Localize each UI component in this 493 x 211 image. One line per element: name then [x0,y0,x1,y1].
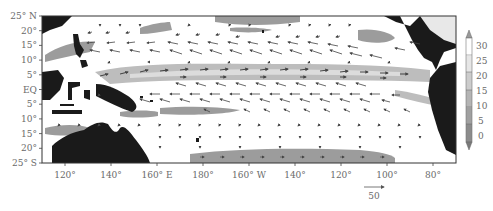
colorbar-tick-label: 5 [478,116,484,126]
y-tick-label: 10° [21,55,37,65]
y-tick-label: 20° [21,26,37,36]
colorbar-tick-label: 0 [478,131,484,141]
y-tick-label: 25° N [10,11,37,21]
colorbar-bottom-extend [466,142,472,150]
y-tick-label: 25° S [12,158,37,168]
y-tick-label: 15° [21,40,37,50]
y-tick-label: 20° [21,143,37,153]
colorbar-tick-label: 15 [476,86,488,96]
x-tick-label: 120° [330,170,352,180]
colorbar: 30 25 20 15 10 5 0 [466,30,488,150]
reference-vector-label: 50 [368,191,380,201]
reference-vector: 50 [364,187,384,201]
colorbar-tick-label: 10 [476,101,488,111]
plot-area [42,16,456,163]
colorbar-top-extend [466,30,472,38]
x-tick-label: 140° [284,170,306,180]
x-tick-label: 100° [376,170,398,180]
y-axis-labels: 25° N 20° 15° 10° 5° EQ 5° 10° 15° 20° 2… [10,11,37,168]
vector-field-map-figure: 120° 140° 160° E 180° 160° W 140° 120° 1… [0,0,493,211]
y-tick-label: EQ [23,85,37,95]
colorbar-tick-label: 30 [476,41,488,51]
x-tick-label: 160° E [141,170,172,180]
x-tick-label: 180° [192,170,214,180]
colorbar-tick-label: 20 [476,71,488,81]
y-tick-label: 10° [21,114,37,124]
x-axis-labels: 120° 140° 160° E 180° 160° W 140° 120° 1… [54,170,441,180]
y-tick-label: 5° [27,99,37,109]
x-tick-label: 80° [425,170,441,180]
y-tick-label: 5° [27,70,37,80]
x-tick-label: 160° W [232,170,267,180]
y-tick-label: 15° [21,129,37,139]
x-tick-label: 120° [54,170,76,180]
x-tick-label: 140° [100,170,122,180]
colorbar-tick-label: 25 [476,56,488,66]
